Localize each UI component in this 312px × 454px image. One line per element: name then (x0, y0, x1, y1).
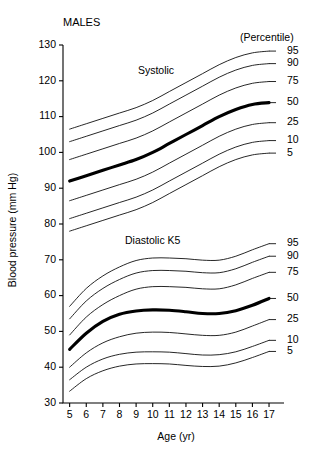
x-tick-label: 11 (164, 408, 175, 420)
x-tick-labels: 567891011121314151617 (67, 408, 275, 420)
x-tick-label: 12 (180, 408, 192, 420)
percentile-label-50: 50 (287, 95, 299, 107)
curve-diastolic-k5-p10 (70, 340, 269, 379)
y-tick-label: 80 (44, 217, 56, 229)
percentile-label-25: 25 (287, 312, 299, 324)
percentile-label-5: 5 (287, 146, 293, 158)
x-tick-label: 17 (263, 408, 275, 420)
group-labels: SystolicDiastolic K5 (125, 64, 181, 246)
percentile-label-95: 95 (287, 236, 299, 248)
curve-diastolic-k5-p50 (70, 298, 269, 349)
curve-systolic-p50 (70, 103, 269, 181)
y-tick-label: 60 (44, 288, 56, 300)
percentile-label-75: 75 (287, 74, 299, 86)
percentile-label-95: 95 (287, 44, 299, 56)
y-tick-label: 50 (44, 324, 56, 336)
percentile-label-25: 25 (287, 115, 299, 127)
group-label-diastolic-k5: Diastolic K5 (125, 234, 181, 246)
y-tick-label: 30 (44, 396, 56, 408)
x-tick-label: 7 (100, 408, 106, 420)
leader-lines-layer (269, 51, 276, 351)
group-label-systolic: Systolic (138, 64, 174, 76)
curve-systolic-p5 (70, 153, 269, 231)
y-tick-label: 40 (44, 360, 56, 372)
x-tick-label: 16 (247, 408, 259, 420)
percentile-label-90: 90 (287, 249, 299, 261)
x-tick-label: 13 (197, 408, 209, 420)
curve-diastolic-k5-p5 (70, 351, 269, 391)
y-tick-label: 120 (38, 74, 56, 86)
x-tick-label: 5 (67, 408, 73, 420)
x-axis-title: Age (yr) (157, 430, 194, 442)
y-tick-label: 70 (44, 253, 56, 265)
y-tick-label: 130 (38, 38, 56, 50)
curves-layer (70, 51, 269, 391)
y-axis-title: Blood pressure (mm Hg) (6, 173, 18, 287)
percentile-label-90: 90 (287, 56, 299, 68)
curve-systolic-p75 (70, 82, 269, 160)
x-tick-label: 14 (213, 408, 225, 420)
curve-diastolic-k5-p75 (70, 272, 269, 335)
curve-diastolic-k5-p95 (70, 244, 269, 307)
legend-header: (Percentile) (240, 31, 294, 43)
chart-title: MALES (63, 16, 100, 28)
x-tick-label: 8 (117, 408, 123, 420)
x-tick-label: 9 (133, 408, 139, 420)
y-tick-label: 110 (39, 109, 56, 121)
percentile-labels: 95907550251059590755025105 (287, 44, 299, 356)
x-tick-label: 6 (83, 408, 89, 420)
y-tick-labels: 30405060708090100110120130 (38, 38, 56, 408)
x-tick-label: 10 (147, 408, 159, 420)
curve-systolic-p10 (70, 141, 269, 219)
curve-systolic-p25 (70, 123, 269, 201)
chart-canvas: MALES (Percentile) 304050607080901001101… (0, 0, 312, 454)
blood-pressure-percentile-chart: MALES (Percentile) 304050607080901001101… (0, 0, 312, 454)
percentile-label-75: 75 (287, 265, 299, 277)
percentile-label-5: 5 (287, 344, 293, 356)
y-tick-label: 100 (38, 145, 56, 157)
percentile-label-50: 50 (287, 291, 299, 303)
x-tick-label: 15 (230, 408, 242, 420)
y-tick-label: 90 (44, 181, 56, 193)
percentile-label-10: 10 (287, 133, 299, 145)
